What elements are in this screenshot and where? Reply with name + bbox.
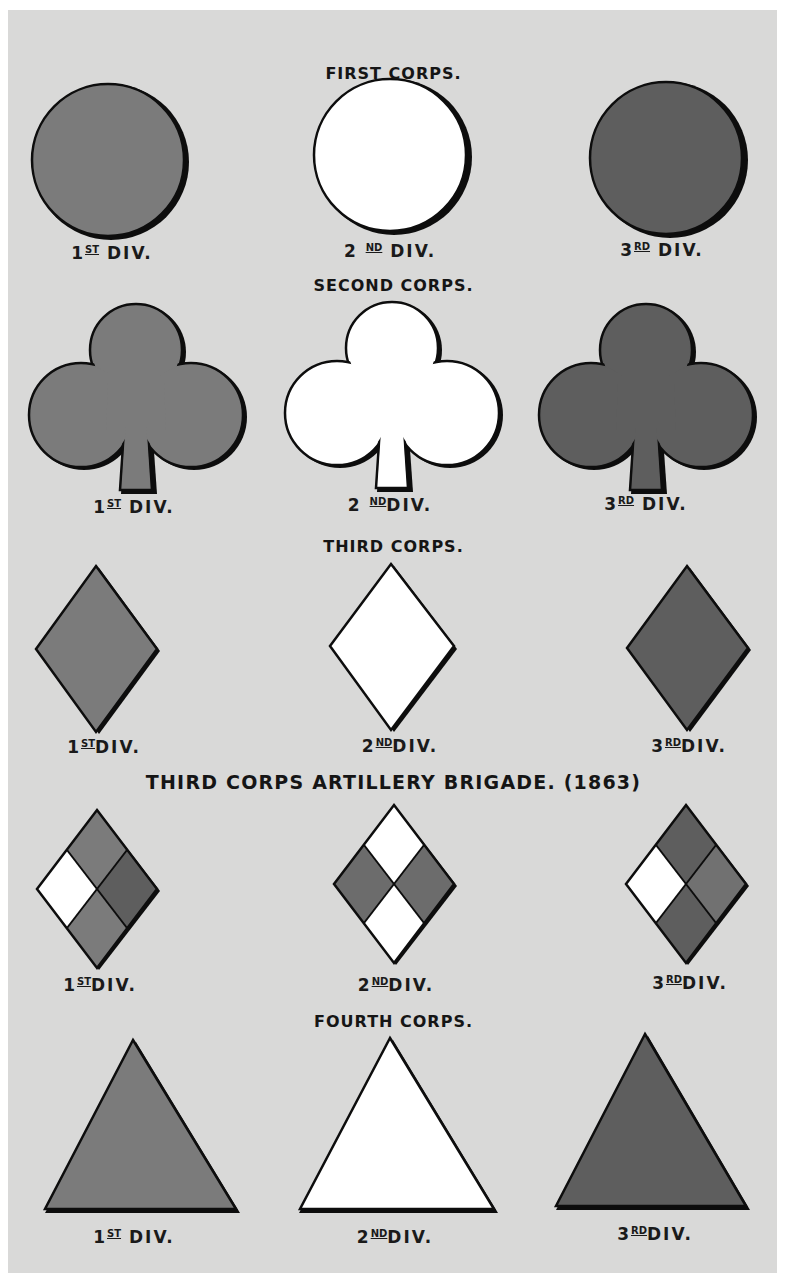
first-corps-2nd-div-circle-icon <box>314 79 472 235</box>
label-fourth-corps-1st-div: 1ST DIV. <box>44 1227 224 1247</box>
label-fourth-corps-2nd-div: 2NDDIV. <box>305 1227 485 1247</box>
fourth-corps-3rd-div-triangle-icon <box>556 1034 750 1210</box>
second-corps-2nd-div-trefoil-icon <box>285 302 503 492</box>
first-corps-1st-div-circle-icon <box>32 84 189 240</box>
artillery-3rd-div-quartered-diamond-icon <box>626 805 749 965</box>
fourth-corps-1st-div-triangle-icon <box>45 1040 240 1213</box>
label-artillery-2nd-div: 2NDDIV. <box>306 975 486 995</box>
heading-third-corps: THIRD CORPS. <box>0 537 787 556</box>
artillery-2nd-div-quartered-diamond-icon <box>334 805 457 965</box>
third-corps-2nd-div-diamond-icon <box>330 564 457 732</box>
corps-badges-illustration <box>0 0 787 1273</box>
label-third-corps-3rd-div: 3RDDIV. <box>599 736 779 756</box>
heading-first-corps: FIRST CORPS. <box>0 64 787 83</box>
label-third-corps-1st-div: 1STDIV. <box>14 737 194 757</box>
first-corps-3rd-div-circle-icon <box>590 82 748 238</box>
first-corps-badges <box>32 79 748 240</box>
third-corps-3rd-div-diamond-icon <box>627 566 751 732</box>
heading-third-corps-artillery: THIRD CORPS ARTILLERY BRIGADE. (1863) <box>0 771 787 793</box>
third-corps-1st-div-diamond-icon <box>36 566 160 734</box>
label-first-corps-3rd-div: 3RD DIV. <box>572 240 752 260</box>
label-second-corps-1st-div: 1ST DIV. <box>44 497 224 517</box>
fourth-corps-2nd-div-triangle-icon <box>299 1038 498 1213</box>
artillery-brigade-badges <box>37 805 749 970</box>
second-corps-3rd-div-trefoil-icon <box>539 304 757 494</box>
label-second-corps-2nd-div: 2 NDDIV. <box>300 495 480 515</box>
heading-fourth-corps: FOURTH CORPS. <box>0 1012 787 1031</box>
second-corps-1st-div-trefoil-icon <box>29 304 247 494</box>
label-second-corps-3rd-div: 3RD DIV. <box>556 494 736 514</box>
third-corps-badges <box>36 564 751 734</box>
label-third-corps-2nd-div: 2NDDIV. <box>310 736 490 756</box>
fourth-corps-badges <box>45 1034 750 1213</box>
heading-second-corps: SECOND CORPS. <box>0 276 787 295</box>
label-first-corps-1st-div: 1ST DIV. <box>22 243 202 263</box>
label-artillery-1st-div: 1STDIV. <box>10 975 190 995</box>
artillery-1st-div-quartered-diamond-icon <box>37 810 160 970</box>
label-fourth-corps-3rd-div: 3RDDIV. <box>565 1224 745 1244</box>
second-corps-badges <box>29 302 757 494</box>
label-artillery-3rd-div: 3RDDIV. <box>600 973 780 993</box>
label-first-corps-2nd-div: 2 ND DIV. <box>300 241 480 261</box>
